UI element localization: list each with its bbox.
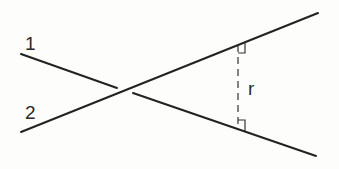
label-line-1: 1 (25, 33, 36, 54)
line-2 (21, 13, 318, 132)
skew-lines-diagram: 1 2 r (0, 0, 339, 169)
label-line-2: 2 (25, 102, 36, 123)
diagram-svg: 1 2 r (0, 0, 339, 169)
line-1 (21, 54, 316, 156)
label-distance-r: r (248, 78, 255, 99)
